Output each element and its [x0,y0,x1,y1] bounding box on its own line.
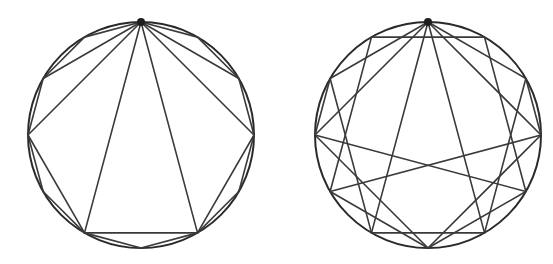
chord-line [239,135,254,192]
chord-line [315,135,526,192]
diagram-canvas [0,0,553,264]
chord-line [85,22,142,233]
chord-line [330,135,541,192]
right-marked-vertex-dot [424,18,432,26]
chord-line [28,135,43,192]
chord-line [428,22,485,233]
chord-line [85,233,142,248]
chord-line [28,22,141,135]
left-circle-figure [28,18,254,248]
left-circle [28,22,254,248]
right-chords [315,22,541,248]
chord-line [141,22,198,233]
chord-line [28,135,85,233]
chord-line [141,233,198,248]
left-chords [28,22,254,248]
left-marked-vertex-dot [137,18,145,26]
right-circle-figure [315,18,541,248]
right-circle [315,22,541,248]
chord-line [141,22,254,135]
chord-line [198,135,255,233]
chord-line [372,22,429,233]
